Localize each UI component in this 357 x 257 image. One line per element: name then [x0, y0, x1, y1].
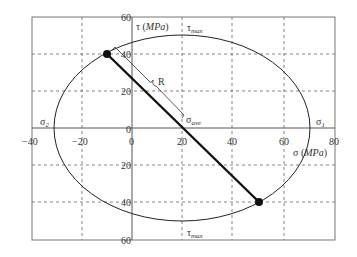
y-tick: 0 — [126, 124, 131, 135]
x-tick: −20 — [72, 136, 88, 147]
stress-point-2 — [255, 198, 263, 206]
y-tick-labels: 60 40 20 0 20 40 60 — [121, 12, 131, 246]
sigma2-label: σ2 — [40, 116, 49, 129]
radius-label: R — [158, 76, 165, 87]
x-tick: 20 — [177, 136, 187, 147]
tau-max-top-label: τmax — [187, 22, 204, 35]
sigma-axis-title: σ (MPa) — [293, 147, 327, 159]
y-tick: 40 — [121, 197, 131, 208]
x-tick: −40 — [22, 136, 38, 147]
x-tick: 80 — [329, 136, 339, 147]
tau-axis-title: τ (MPa) — [136, 21, 169, 33]
x-tick: 0 — [129, 136, 134, 147]
sigma-ave-label: σave — [186, 114, 201, 127]
tau-max-bottom-label: τmax — [187, 227, 204, 240]
y-tick: 60 — [121, 235, 131, 246]
y-tick: 40 — [121, 49, 131, 60]
sigma1-label: σ1 — [316, 116, 325, 129]
y-tick: 60 — [121, 12, 131, 23]
y-tick: 20 — [121, 86, 131, 97]
stress-point-1 — [103, 50, 111, 58]
x-tick: 60 — [279, 136, 289, 147]
x-tick-labels: −40 −20 0 20 40 60 80 — [22, 136, 339, 147]
y-tick: 20 — [121, 160, 131, 171]
x-tick: 40 — [227, 136, 237, 147]
mohr-circle-diagram: −40 −20 0 20 40 60 80 60 40 20 0 20 40 6… — [0, 0, 357, 257]
